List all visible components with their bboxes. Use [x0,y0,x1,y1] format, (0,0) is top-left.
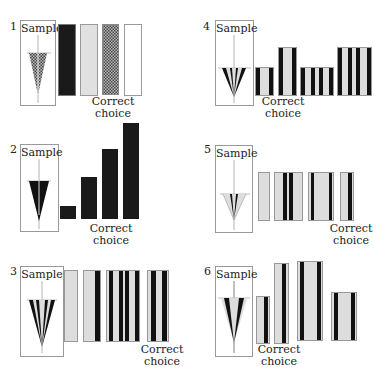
choice-4-wide-short[interactable] [331,292,357,341]
sample-cone-icon [216,146,252,232]
sample-box: Sample [215,20,254,106]
choice-1-black[interactable] [58,24,76,96]
correct-line2: choice [86,235,136,247]
sample-box: Sample [215,145,253,233]
correct-line2: choice [88,108,138,120]
panel-number: 2 [10,143,17,156]
choice-1-plain[interactable] [258,172,270,221]
sample-box: Sample [215,266,253,357]
choice-1-plain[interactable] [64,270,78,342]
choice-1-short-two-stripe[interactable] [255,67,274,96]
correct-choice-label: Correct choice [137,344,187,368]
choice-4-tallest[interactable] [123,123,139,219]
choice-2-narrow-tall[interactable] [274,263,289,344]
choice-3-tall[interactable] [102,149,118,219]
correct-line2: choice [137,356,187,368]
choice-3-short-four-stripe[interactable] [300,67,334,96]
choice-1-short[interactable] [60,206,76,219]
choice-2-one-stripe[interactable] [83,270,101,342]
correct-choice-label: Correct choice [254,344,304,368]
panel-number: 5 [204,143,211,156]
panel-5: 5 Sample Correct choice [190,120,374,255]
choice-4-one-stripe[interactable] [340,172,354,221]
correct-choice-label: Correct choice [88,96,138,120]
sample-cone-icon [216,267,252,356]
panel-number: 3 [10,265,17,278]
sample-box: Sample [20,20,56,106]
sample-cone-icon [21,21,55,105]
choice-4-two-stripes[interactable] [147,270,169,342]
correct-line2: choice [326,235,374,247]
panel-3: 3 Sample Correct choice [0,255,190,376]
choice-4-white[interactable] [124,24,142,96]
choice-2-tall-two-stripe[interactable] [278,47,297,96]
choice-3-wide-tall[interactable] [297,261,323,341]
correct-choice-label: Correct choice [258,96,308,120]
choice-3-edge-stripes[interactable] [308,172,334,221]
choice-2-medium[interactable] [81,177,97,219]
sample-box: Sample [20,144,59,232]
choice-1-narrow-short[interactable] [256,296,270,344]
choice-2-grey[interactable] [80,24,98,96]
choice-3-patterned[interactable] [102,24,120,96]
panel-number: 1 [10,20,17,33]
sample-cone-icon [21,145,58,231]
panel-4: 4 Sample Correct choice [190,0,374,125]
panel-2: 2 Sample Correct choice [0,120,190,255]
choice-3-many-stripes[interactable] [106,270,140,342]
sample-cone-icon [21,267,63,356]
sample-box: Sample [20,266,64,357]
panel-6: 6 Sample Correct choice [190,255,374,376]
choice-4-tall-four-stripe[interactable] [337,47,372,96]
panel-1: 1 Sample Correct choice [0,0,190,125]
panel-number: 6 [204,265,211,278]
correct-choice-label: Correct choice [86,223,136,247]
sample-cone-icon [216,21,253,105]
correct-choice-label: Correct choice [326,223,374,247]
panel-number: 4 [203,20,210,33]
choice-2-center-stripes[interactable] [274,172,303,221]
correct-line2: choice [254,356,304,368]
correct-line2: choice [258,108,308,120]
